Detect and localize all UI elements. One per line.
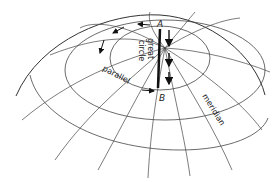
label-circle: circle [137,40,146,61]
globe-diagram: A B great circle parallel meridian [0,0,275,182]
meridians [22,12,270,178]
parallel-outer [30,75,268,150]
label-meridian: meridian [200,92,226,127]
label-great: great [146,38,155,59]
label-point-b: B [159,93,165,103]
label-parallel: parallel [101,64,132,86]
label-point-a: A [156,19,163,29]
parallel-middle [65,20,265,120]
